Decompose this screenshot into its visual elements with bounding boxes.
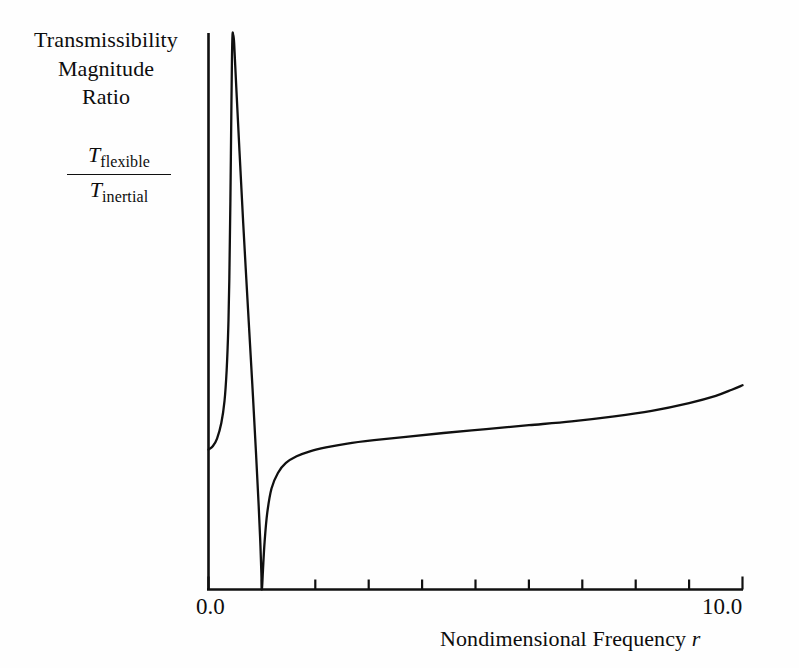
x-axis-title: Nondimensional Frequency r	[440, 626, 700, 652]
x-axis-title-text: Nondimensional Frequency	[440, 626, 686, 651]
x-axis-tick-label-max: 10.0	[702, 594, 742, 620]
axis-lines	[207, 33, 743, 590]
data-curve-transmissibility	[209, 33, 743, 590]
x-axis-title-variable: r	[692, 626, 701, 651]
plot-area	[0, 0, 799, 668]
x-axis-ticks	[209, 577, 743, 590]
figure-canvas: Transmissibility Magnitude Ratio Tflexib…	[0, 0, 799, 668]
x-axis-tick-label-min: 0.0	[196, 594, 225, 620]
